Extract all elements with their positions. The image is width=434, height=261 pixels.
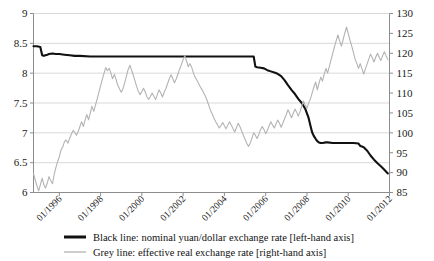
x-axis-tick-label: 01/2008	[282, 194, 311, 223]
series-line-grey	[34, 27, 388, 191]
legend-label: Grey line: effective real exchange rate …	[93, 247, 326, 258]
x-axis-tick-label: 01/2012	[365, 194, 394, 223]
left-axis-tick-label: 7	[22, 127, 28, 139]
right-axis-tick-label: 110	[397, 87, 414, 99]
x-axis-tick-labels: 01/199601/199801/200001/200201/200401/20…	[35, 194, 394, 223]
left-axis-tick-label: 6	[22, 186, 28, 198]
right-axis-tick-label: 115	[397, 67, 414, 79]
right-axis-tick-labels: 859095100105110115120125130	[397, 7, 414, 198]
x-axis-tick-label: 01/2006	[241, 194, 270, 223]
x-axis-tick-label: 01/2004	[200, 194, 229, 223]
left-axis-tick-label: 8.5	[14, 37, 28, 49]
right-axis-tick-label: 95	[397, 147, 409, 159]
x-axis-tick-label: 01/1996	[35, 194, 64, 223]
legend-label: Black line: nominal yuan/dollar exchange…	[93, 232, 354, 243]
right-axis-tick-label: 100	[397, 127, 414, 139]
data-series	[34, 27, 388, 191]
right-axis-tick-label: 105	[397, 107, 414, 119]
x-axis-tick-label: 01/2000	[117, 194, 146, 223]
left-axis-tick-labels: 66.577.588.59	[14, 7, 28, 198]
right-axis-tick-label: 125	[397, 27, 414, 39]
right-axis-tick-label: 90	[397, 166, 409, 178]
tick-marks	[30, 14, 393, 197]
right-axis-tick-label: 130	[397, 7, 414, 19]
right-axis-tick-label: 85	[397, 186, 409, 198]
exchange-rate-chart: 66.577.588.59 85909510010511011512012513…	[0, 0, 434, 261]
left-axis-tick-label: 9	[22, 7, 28, 19]
x-axis-tick-label: 01/2010	[324, 194, 353, 223]
chart-canvas: 66.577.588.59 85909510010511011512012513…	[0, 0, 434, 261]
left-axis-tick-label: 8	[22, 67, 28, 79]
right-axis-tick-label: 120	[397, 47, 414, 59]
chart-legend: Black line: nominal yuan/dollar exchange…	[64, 232, 354, 258]
x-axis-tick-label: 01/1998	[76, 194, 105, 223]
x-axis-tick-label: 01/2002	[158, 194, 187, 223]
left-axis-tick-label: 7.5	[14, 97, 28, 109]
left-axis-tick-label: 6.5	[14, 156, 28, 168]
